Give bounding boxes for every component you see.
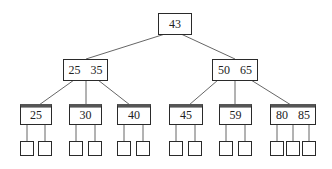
node-key: 25 xyxy=(69,63,81,78)
node-key: 65 xyxy=(240,63,252,78)
external-node xyxy=(136,141,150,156)
tree-diagram: 43 25 35 50 65 25 30 40 45 59 80 85 xyxy=(0,0,332,169)
external-node xyxy=(117,141,131,156)
external-node xyxy=(188,141,202,156)
external-node xyxy=(20,141,34,156)
external-node xyxy=(169,141,183,156)
edge-root-left xyxy=(86,34,165,59)
node-key: 25 xyxy=(30,108,42,123)
internal-node-left: 25 35 xyxy=(63,59,108,81)
root-node: 43 xyxy=(158,13,192,35)
leaf-node: 59 xyxy=(219,104,252,125)
external-node xyxy=(238,141,252,156)
leaf-node: 80 85 xyxy=(270,104,316,125)
external-node xyxy=(88,141,102,156)
external-node xyxy=(69,141,83,156)
external-node xyxy=(219,141,233,156)
node-key: 85 xyxy=(298,108,310,123)
node-key: 59 xyxy=(230,108,242,123)
external-node xyxy=(270,141,284,156)
internal-node-right: 50 65 xyxy=(212,59,258,81)
leaf-node: 45 xyxy=(169,104,203,125)
external-node xyxy=(302,141,316,156)
external-node xyxy=(38,141,52,156)
edge-root-right xyxy=(181,34,235,59)
edge xyxy=(98,80,130,105)
external-node xyxy=(286,141,300,156)
node-key: 45 xyxy=(180,108,192,123)
leaf-node: 40 xyxy=(117,104,151,125)
node-key: 30 xyxy=(80,108,92,123)
edge xyxy=(39,80,74,105)
node-key: 50 xyxy=(218,63,230,78)
node-key: 35 xyxy=(91,63,103,78)
leaf-node: 30 xyxy=(69,104,102,125)
root-key: 43 xyxy=(169,17,181,32)
node-key: 80 xyxy=(276,108,288,123)
edge xyxy=(251,80,291,105)
leaf-node: 25 xyxy=(20,104,52,125)
edge xyxy=(189,80,218,105)
node-key: 40 xyxy=(128,108,140,123)
